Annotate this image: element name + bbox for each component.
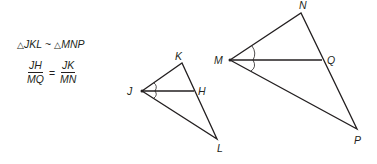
vertex-j-dot — [141, 90, 144, 93]
vertex-m-dot — [229, 59, 232, 62]
label-j: J — [126, 85, 133, 97]
angle-mark-nmq — [252, 46, 255, 60]
label-q: Q — [327, 54, 335, 66]
angle-mark-hjl — [154, 91, 156, 98]
triangle-jkl-figure — [142, 63, 217, 139]
triangle-jkl-outline — [142, 63, 217, 139]
triangle-mnp-figure — [230, 13, 357, 129]
label-k: K — [175, 50, 183, 62]
angle-mark-qmp — [251, 60, 255, 71]
label-l: L — [217, 142, 223, 154]
angle-mark-kjh — [154, 83, 156, 91]
triangle-mnp-outline — [230, 13, 357, 129]
triangles-figure: J K H L M N Q P — [0, 0, 377, 164]
label-n: N — [299, 0, 307, 11]
label-h: H — [198, 85, 206, 97]
label-m: M — [214, 54, 223, 66]
label-p: P — [354, 134, 361, 146]
